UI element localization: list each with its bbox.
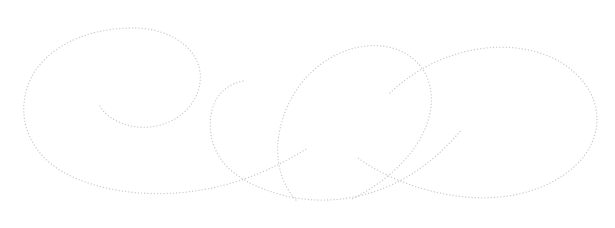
dotted-flourish-illustration — [0, 0, 615, 228]
artwork-canvas — [0, 0, 615, 228]
canvas-background — [0, 0, 615, 228]
